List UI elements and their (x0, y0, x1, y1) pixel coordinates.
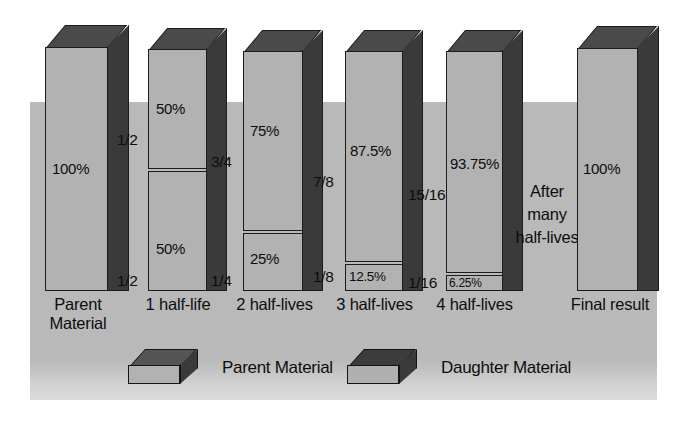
daughter-segment-label: 87.5% (350, 142, 391, 159)
parent-segment-label: 50% (156, 240, 185, 257)
bar-side-face (637, 26, 659, 291)
bar-side-face (302, 30, 323, 291)
bar-label-line-1: 4 half-lives (422, 295, 527, 314)
bar-label-line-2: Material (32, 314, 124, 333)
parent-segment-label: 12.5% (349, 269, 386, 284)
daughter-fraction-label: 1/2 (117, 131, 138, 149)
parent-fraction-label: 1/8 (313, 268, 334, 286)
bar-label-parent-material: Parent Material (32, 295, 124, 333)
bar-label-line-1: 1 half-life (130, 295, 226, 314)
bar-side-face (107, 25, 129, 291)
bar-label-line-1: 2 half-lives (222, 295, 327, 314)
daughter-segment-label: 93.75% (450, 155, 499, 172)
bar-side-face (502, 30, 523, 291)
bar-label-1-half-life: 1 half-life (130, 295, 226, 314)
daughter-segment-label: 100% (583, 160, 620, 177)
daughter-material-swatch-icon (347, 349, 419, 385)
parent-fraction-label: 1/16 (408, 274, 437, 292)
parent-material-swatch-icon (128, 349, 200, 385)
daughter-segment (243, 51, 303, 231)
legend-entry-daughter (347, 349, 419, 385)
daughter-segment-label: 50% (156, 100, 185, 117)
bar-side-face (402, 30, 423, 291)
daughter-fraction-label: 15/16 (408, 186, 445, 204)
decay-diagram: 100% Parent Material 50% 50% 1/2 1/2 1 h… (0, 0, 675, 426)
parent-segment-label: 6.25% (449, 276, 482, 290)
parent-segment (148, 171, 207, 291)
bar-label-2-half-lives: 2 half-lives (222, 295, 327, 314)
bar-label-line-1: Parent (32, 295, 124, 314)
daughter-fraction-label: 3/4 (211, 153, 232, 171)
daughter-segment-label: 75% (250, 122, 279, 139)
bar-label-line-1: Final result (560, 295, 660, 314)
parent-fraction-label: 1/4 (211, 272, 232, 290)
legend-entry-parent (128, 349, 200, 385)
parent-fraction-label: 1/2 (117, 272, 138, 290)
legend-label-daughter: Daughter Material (441, 358, 571, 378)
bar-label-final-result: Final result (560, 295, 660, 314)
bar-label-line-1: 3 half-lives (322, 295, 427, 314)
parent-segment-label: 100% (52, 160, 89, 177)
parent-segment-label: 25% (250, 250, 279, 267)
legend-label-parent: Parent Material (222, 358, 333, 378)
bar-label-3-half-lives: 3 half-lives (322, 295, 427, 314)
bar-label-4-half-lives: 4 half-lives (422, 295, 527, 314)
daughter-fraction-label: 7/8 (313, 173, 334, 191)
